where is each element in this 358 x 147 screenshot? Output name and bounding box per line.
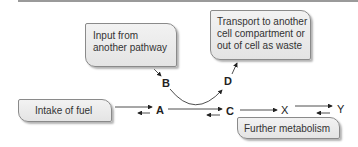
transport-box: Transport to another cell compartment or…	[210, 10, 311, 60]
intake-of-fuel-box: Intake of fuel	[18, 99, 112, 122]
node-a: A	[156, 104, 164, 116]
node-c: C	[226, 105, 234, 117]
further-metabolism-box: Further metabolism	[237, 117, 340, 139]
node-b: B	[162, 77, 170, 89]
input-line-1: Input from	[93, 30, 176, 42]
node-y: Y	[337, 103, 344, 115]
input-from-pathway-box: Input from another pathway	[85, 23, 177, 67]
node-d: D	[224, 75, 232, 87]
transport-line-1: Transport to another	[217, 16, 310, 28]
node-x: X	[281, 104, 288, 116]
further-label: Further metabolism	[244, 123, 330, 134]
transport-line-3: out of cell as waste	[217, 40, 310, 52]
transport-line-2: cell compartment or	[217, 28, 310, 40]
intake-label: Intake of fuel	[35, 105, 92, 116]
input-line-2: another pathway	[93, 42, 176, 54]
